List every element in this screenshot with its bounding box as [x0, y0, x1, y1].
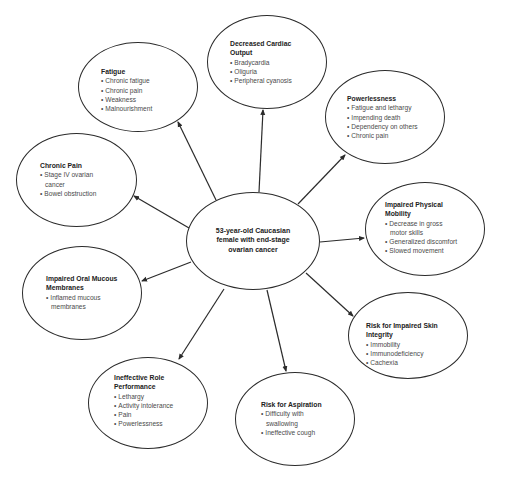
list-item: Chronic pain	[101, 86, 196, 95]
node-title: Risk for Impaired SkinIntegrity	[366, 321, 464, 340]
list-item: Malnourishment	[101, 104, 196, 113]
list-item: Bowel obstruction	[40, 189, 108, 198]
node-items: Stage IV ovarian cancer Bowel obstructio…	[40, 170, 108, 198]
list-item: Decrease in gross motor skills	[385, 219, 456, 238]
list-item: Immobility	[366, 340, 464, 349]
node-fatigue-content: Fatigue Chronic fatigue Chronic pain Wea…	[101, 67, 196, 113]
list-item: Generalized discomfort	[385, 237, 483, 246]
list-item: Impending death	[347, 113, 445, 122]
list-item: Chronic fatigue	[101, 76, 196, 85]
arrow-to-impaired-oral-mucous-membranes	[142, 262, 191, 281]
list-item: Dependency on others	[347, 122, 445, 131]
node-items: Inflamed mucous membranes	[46, 293, 136, 312]
center-label: 53-year-old Caucasian female with end-st…	[186, 226, 320, 254]
list-item: Immunodeficiency	[366, 349, 464, 358]
list-item: Powerlessness	[114, 419, 204, 428]
node-powerlessness-content: Powerlessness Fatigue and lethargy Impen…	[347, 94, 445, 140]
arrow-to-fatigue	[178, 122, 216, 200]
node-title: Risk for Aspiration	[261, 400, 351, 409]
list-item: Bradycardia	[230, 58, 325, 67]
list-item: Difficulty with swallowing	[261, 409, 322, 428]
list-item: Pain	[114, 410, 204, 419]
node-items: Bradycardia Oliguria Peripheral cyanosis	[230, 58, 325, 86]
list-item: Inflamed mucous membranes	[46, 293, 117, 312]
node-title: Ineffective RolePerformance	[114, 373, 204, 392]
node-items: Chronic fatigue Chronic pain Weakness Ma…	[101, 76, 196, 113]
list-item: Fatigue and lethargy	[347, 103, 445, 112]
node-title: Powerlessness	[347, 94, 445, 103]
node-decreased-cardiac-output-content: Decreased CardiacOutput Bradycardia Olig…	[230, 39, 325, 85]
list-item: Ineffective cough	[261, 428, 351, 437]
node-items: Immobility Immunodeficiency Cachexia	[366, 340, 464, 368]
arrow-to-risk-for-aspiration	[267, 290, 286, 371]
node-items: Fatigue and lethargy Impending death Dep…	[347, 103, 445, 140]
center-line-2: female with end-stage	[186, 235, 320, 244]
center-line-1: 53-year-old Caucasian	[186, 226, 320, 235]
node-items: Lethargy Activity intolerance Pain Power…	[114, 392, 204, 429]
node-risk-for-impaired-skin-integrity-content: Risk for Impaired SkinIntegrity Immobili…	[366, 321, 464, 367]
list-item: Weakness	[101, 95, 196, 104]
list-item: Peripheral cyanosis	[230, 76, 325, 85]
list-item: Chronic pain	[347, 131, 445, 140]
center-line-3: ovarian cancer	[186, 245, 320, 254]
list-item: Oliguria	[230, 67, 325, 76]
node-items: Decrease in gross motor skills Generaliz…	[385, 219, 483, 256]
arrow-to-ineffective-role-performance	[179, 289, 224, 359]
node-impaired-physical-mobility-content: Impaired PhysicalMobility Decrease in gr…	[385, 200, 483, 256]
node-title: Impaired Oral MucousMembranes	[46, 274, 136, 293]
list-item: Activity intolerance	[114, 401, 204, 410]
list-item: Slowed movement	[385, 246, 483, 255]
node-title: Fatigue	[101, 67, 196, 76]
node-risk-for-aspiration-content: Risk for Aspiration Difficulty with swal…	[261, 400, 351, 437]
node-chronic-pain-content: Chronic Pain Stage IV ovarian cancer Bow…	[40, 161, 108, 198]
node-title: Decreased CardiacOutput	[230, 39, 325, 58]
arrow-to-powerlessness	[298, 155, 345, 204]
node-title: Impaired PhysicalMobility	[385, 200, 483, 219]
node-ineffective-role-performance-content: Ineffective RolePerformance Lethargy Act…	[114, 373, 204, 429]
list-item: Lethargy	[114, 392, 204, 401]
list-item: Stage IV ovarian cancer	[40, 170, 108, 189]
node-title: Chronic Pain	[40, 161, 108, 170]
arrow-to-impaired-physical-mobility	[320, 238, 364, 242]
list-item: Cachexia	[366, 358, 464, 367]
arrow-to-decreased-cardiac-output	[259, 110, 263, 192]
arrow-to-risk-for-impaired-skin-integrity	[306, 273, 353, 316]
arrow-to-chronic-pain	[134, 196, 189, 228]
node-impaired-oral-mucous-membranes-content: Impaired Oral MucousMembranes Inflamed m…	[46, 274, 136, 311]
node-items: Difficulty with swallowing Ineffective c…	[261, 409, 351, 437]
